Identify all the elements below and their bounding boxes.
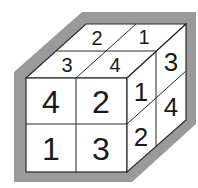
front-bottom-left-number: 1 bbox=[42, 131, 60, 167]
top-back-left-number: 2 bbox=[91, 27, 102, 49]
right-top-back-number: 3 bbox=[164, 47, 178, 77]
right-bottom-front-number: 2 bbox=[134, 122, 148, 152]
right-top-front-number: 1 bbox=[134, 77, 148, 107]
top-front-right-number: 4 bbox=[109, 54, 120, 76]
front-top-right-number: 2 bbox=[92, 84, 110, 120]
front-bottom-right-number: 3 bbox=[92, 131, 110, 167]
right-bottom-back-number: 4 bbox=[164, 92, 178, 122]
front-top-left-number: 4 bbox=[42, 84, 60, 120]
top-front-left-number: 3 bbox=[61, 54, 72, 76]
cube-diagram: 2 1 3 4 4 2 1 3 1 3 2 4 bbox=[0, 0, 198, 188]
top-back-right-number: 1 bbox=[138, 26, 149, 48]
